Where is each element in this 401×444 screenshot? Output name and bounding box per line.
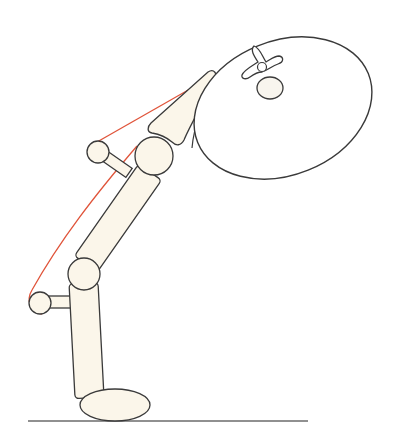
shin	[69, 282, 104, 398]
upper-rod-knob	[87, 141, 109, 163]
foot	[80, 389, 150, 421]
hip-joint	[135, 137, 173, 175]
knee-joint	[68, 258, 100, 290]
lower-rod-knob	[29, 292, 51, 314]
figure-canvas	[0, 0, 401, 444]
load-ellipse	[173, 11, 394, 204]
vertebra-body	[257, 77, 283, 99]
thigh	[74, 164, 161, 272]
mannequin-diagram	[0, 0, 401, 444]
vertebra-canal	[258, 63, 267, 72]
